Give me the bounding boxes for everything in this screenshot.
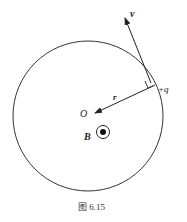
figure-caption: 图 6.15 — [78, 202, 106, 212]
label-charge: +q — [158, 84, 169, 94]
field-dot-icon — [100, 129, 106, 135]
radius-arrow — [95, 86, 153, 113]
diagram-canvas: v +q r O B 图 6.15 — [0, 0, 187, 222]
label-field: B — [83, 131, 91, 142]
label-radius: r — [113, 92, 117, 102]
velocity-arrow — [125, 18, 151, 83]
orbit-circle — [13, 41, 163, 191]
label-velocity: v — [130, 8, 135, 19]
right-angle-marker — [145, 81, 155, 88]
label-center: O — [80, 108, 87, 119]
